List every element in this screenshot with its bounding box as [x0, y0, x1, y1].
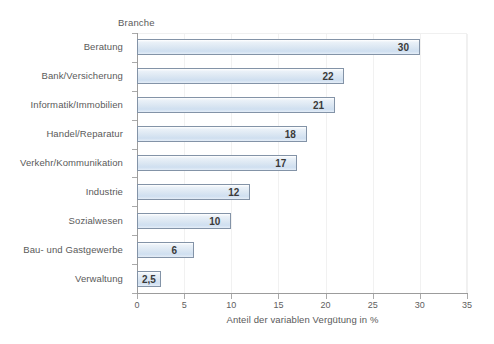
bar[interactable] — [137, 97, 335, 113]
x-axis-title: Anteil der variablen Vergütung in % — [137, 314, 468, 325]
y-axis-title: Branche — [118, 17, 155, 28]
x-axis-tick — [420, 294, 421, 299]
category-label: Informatik/Immobilien — [31, 99, 123, 110]
bar[interactable] — [137, 39, 420, 55]
category-label: Handel/Reparatur — [46, 128, 123, 139]
x-axis-tick-label: 5 — [182, 300, 187, 310]
x-axis-tick-label: 35 — [462, 300, 472, 310]
bar-value-label: 18 — [285, 129, 296, 140]
x-axis-tick-label: 20 — [321, 300, 331, 310]
category-label: Verwaltung — [75, 273, 123, 284]
bar-value-label: 10 — [209, 215, 220, 226]
category-label: Sozialwesen — [69, 215, 123, 226]
bar-row[interactable]: 18 — [137, 126, 467, 142]
category-label: Bank/Versicherung — [42, 70, 123, 81]
bars: 3022211817121062,5 — [137, 33, 468, 293]
bar-value-label: 21 — [313, 100, 324, 111]
bar[interactable] — [137, 242, 194, 258]
category-labels: BeratungBank/VersicherungInformatik/Immo… — [0, 33, 131, 293]
x-axis-tick — [373, 294, 374, 299]
x-axis-tick-label: 15 — [273, 300, 283, 310]
bar-row[interactable]: 12 — [137, 184, 467, 200]
bar-value-label: 17 — [275, 158, 286, 169]
x-axis-tick — [184, 294, 185, 299]
bar-row[interactable]: 10 — [137, 213, 467, 229]
x-axis-tick — [467, 294, 468, 299]
category-label: Bau- und Gastgewerbe — [23, 244, 123, 255]
x-axis-tick — [137, 294, 138, 299]
bar[interactable] — [137, 68, 344, 84]
bar-row[interactable]: 30 — [137, 39, 467, 55]
x-axis-tick — [326, 294, 327, 299]
bar-value-label: 30 — [398, 42, 409, 53]
category-label: Verkehr/Kommunikation — [20, 157, 123, 168]
bar-row[interactable]: 21 — [137, 97, 467, 113]
bar-value-label: 2,5 — [142, 273, 156, 284]
y-axis-tick — [132, 293, 137, 294]
x-axis-line — [137, 293, 468, 294]
x-axis-tick — [278, 294, 279, 299]
x-axis-tick-label: 0 — [134, 300, 139, 310]
bar-chart: Branche 05101520253035 BeratungBank/Vers… — [0, 0, 494, 344]
x-axis-tick-label: 30 — [415, 300, 425, 310]
bar[interactable] — [137, 126, 307, 142]
bar[interactable] — [137, 155, 297, 171]
bar-row[interactable]: 17 — [137, 155, 467, 171]
category-label: Industrie — [86, 186, 123, 197]
bar-value-label: 22 — [322, 71, 333, 82]
x-axis-tick-label: 25 — [368, 300, 378, 310]
bar-value-label: 12 — [228, 186, 239, 197]
x-axis-tick-label: 10 — [226, 300, 236, 310]
bar-row[interactable]: 2,5 — [137, 271, 467, 287]
bar-row[interactable]: 22 — [137, 68, 467, 84]
x-axis-tick — [231, 294, 232, 299]
bar-value-label: 6 — [172, 244, 178, 255]
category-label: Beratung — [84, 41, 123, 52]
bar-row[interactable]: 6 — [137, 242, 467, 258]
